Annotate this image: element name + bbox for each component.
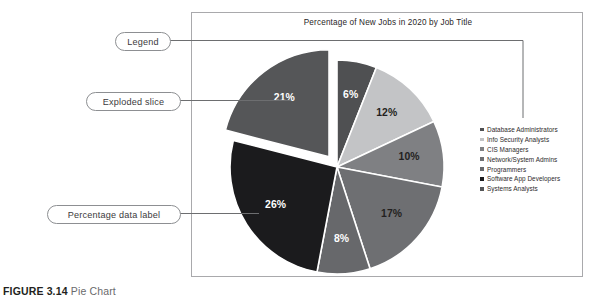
legend-item-label: Systems Analysts bbox=[487, 185, 538, 192]
legend-item[interactable]: Network/System Admins bbox=[480, 156, 584, 163]
legend-swatch-icon bbox=[480, 128, 484, 132]
legend-item-label: CIS Managers bbox=[487, 146, 528, 153]
percentage-data-label: 21% bbox=[272, 92, 296, 103]
figure-caption: FIGURE 3.14 Pie Chart bbox=[3, 285, 116, 297]
percentage-data-label: 8% bbox=[330, 233, 354, 244]
legend-swatch-icon bbox=[480, 157, 484, 161]
legend-item-label: Programmers bbox=[487, 166, 526, 173]
legend-item[interactable]: Software App Developers bbox=[480, 175, 584, 182]
legend-swatch-icon bbox=[480, 177, 484, 181]
legend-item[interactable]: CIS Managers bbox=[480, 146, 584, 153]
callout-percentage-data-label: Percentage data label bbox=[47, 205, 181, 224]
percentage-data-label: 17% bbox=[380, 208, 404, 219]
legend-item-label: Network/System Admins bbox=[487, 156, 557, 163]
percentage-data-label: 10% bbox=[397, 151, 421, 162]
percentage-data-label: 12% bbox=[375, 107, 399, 118]
callout-exploded-slice: Exploded slice bbox=[86, 92, 181, 111]
legend-item[interactable]: Systems Analysts bbox=[480, 185, 584, 192]
legend: Database Administrators Info Security An… bbox=[480, 126, 584, 195]
percentage-data-label: 26% bbox=[264, 199, 288, 210]
figure-number: FIGURE 3.14 bbox=[3, 285, 68, 297]
legend-item[interactable]: Database Administrators bbox=[480, 126, 584, 133]
legend-swatch-icon bbox=[480, 147, 484, 151]
legend-item-label: Info Security Analysts bbox=[487, 136, 549, 143]
legend-swatch-icon bbox=[480, 167, 484, 171]
legend-item-label: Software App Developers bbox=[487, 175, 560, 182]
figure-title-text: Pie Chart bbox=[71, 285, 116, 297]
chart-panel: Percentage of New Jobs in 2020 by Job Ti… bbox=[191, 12, 583, 277]
legend-swatch-icon bbox=[480, 187, 484, 191]
legend-item[interactable]: Info Security Analysts bbox=[480, 136, 584, 143]
callout-legend: Legend bbox=[115, 32, 171, 51]
legend-item[interactable]: Programmers bbox=[480, 166, 584, 173]
legend-item-label: Database Administrators bbox=[487, 126, 558, 133]
legend-swatch-icon bbox=[480, 138, 484, 142]
percentage-data-label: 6% bbox=[339, 89, 363, 100]
